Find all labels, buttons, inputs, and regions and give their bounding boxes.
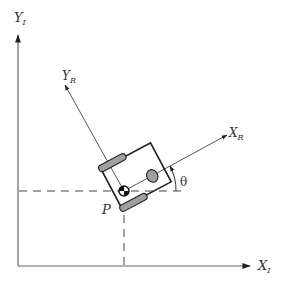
inertial-axes bbox=[18, 35, 250, 266]
robot-frame-diagram: YI XI YR XR P θ bbox=[0, 0, 283, 284]
robot-x-label: XR bbox=[228, 126, 244, 142]
point-p-label: P bbox=[101, 202, 111, 217]
inertial-x-label: XI bbox=[257, 258, 271, 275]
robot-y-label: YR bbox=[62, 69, 76, 85]
inertial-y-label: YI bbox=[14, 10, 27, 27]
theta-label: θ bbox=[180, 175, 187, 189]
reference-point-p bbox=[119, 186, 129, 196]
theta-angle-arc bbox=[170, 166, 176, 191]
